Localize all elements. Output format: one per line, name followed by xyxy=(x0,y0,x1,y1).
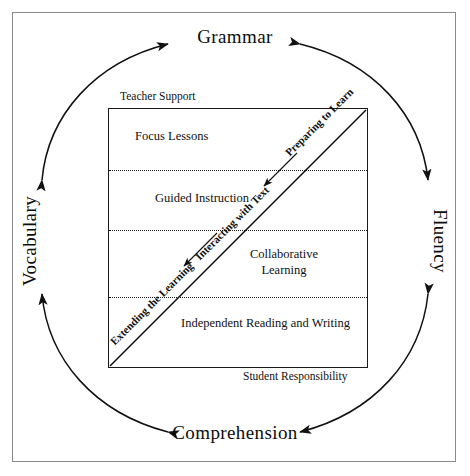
cycle-label-comprehension: Comprehension xyxy=(0,422,470,444)
caption-teacher-support: Teacher Support xyxy=(120,90,196,102)
band-label-focus-lessons: Focus Lessons xyxy=(135,129,208,145)
caption-student-responsibility: Student Responsibility xyxy=(243,370,347,382)
cycle-label-fluency: Fluency xyxy=(429,166,451,316)
band-divider-2 xyxy=(109,230,367,231)
band-label-guided-instruction: Guided Instruction xyxy=(155,191,249,207)
cycle-label-vocabulary: Vocabulary xyxy=(19,166,41,316)
band-label-independent-reading-and-writing: Independent Reading and Writing xyxy=(181,316,350,332)
band-divider-1 xyxy=(109,170,367,171)
diagram-page: Grammar Comprehension Vocabulary Fluency… xyxy=(0,0,470,476)
cycle-label-grammar: Grammar xyxy=(0,26,470,48)
band-label-collaborative-learning: Collaborative Learning xyxy=(229,247,339,278)
instructional-framework-square: Focus Lessons Guided Instruction Collabo… xyxy=(108,108,368,368)
